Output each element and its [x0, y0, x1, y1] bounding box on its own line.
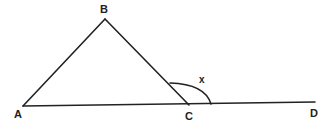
label-b: B: [100, 3, 108, 15]
label-c: C: [185, 110, 193, 122]
label-angle-x: x: [199, 74, 205, 85]
angle-arc-x: [170, 83, 211, 104]
segment-ad: [23, 102, 315, 106]
label-d: D: [310, 107, 318, 119]
label-a: A: [14, 108, 22, 120]
segment-ab: [23, 19, 105, 106]
segment-bc: [105, 19, 189, 105]
geometry-diagram: B A C D x: [0, 0, 329, 129]
